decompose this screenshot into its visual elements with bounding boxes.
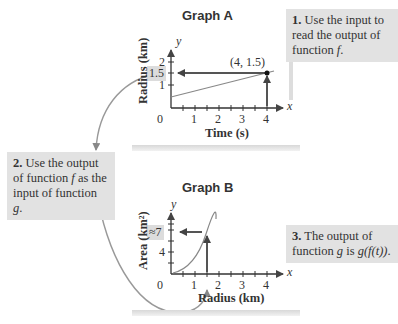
graph-a-x-label: Time (s) — [205, 126, 249, 141]
callout-step-2: 2. Use the output of function f as the i… — [7, 152, 115, 220]
graph-a-shadow — [132, 145, 300, 151]
graph-a-xtick-1: 1 — [191, 112, 197, 127]
step-3-text-b: is — [343, 244, 358, 258]
graph-a-axes — [168, 50, 283, 111]
graph-b-xtick-0: 0 — [157, 278, 163, 293]
graph-a-xtick-4: 4 — [263, 112, 269, 127]
graph-a-y-var: y — [176, 34, 181, 49]
graph-a-point-label: (4, 1.5) — [230, 55, 265, 70]
graph-a-y-label: Radius (km) — [136, 38, 151, 104]
step-3-expression: g(f(t)) — [358, 244, 388, 258]
step-2-end: . — [19, 201, 22, 215]
graph-b-xtick-1: 1 — [191, 278, 197, 293]
step-3-end: . — [388, 244, 391, 258]
graph-b-y-label: Area (km²) — [136, 211, 151, 270]
graph-b-x-var: x — [287, 265, 292, 280]
step-2-number: 2. — [13, 156, 22, 170]
graph-b-y-var: y — [171, 197, 176, 212]
callout-step-1: 1. Use the input to read the output of f… — [286, 9, 398, 62]
graph-a-title: Graph A — [182, 8, 233, 23]
callout-step-3: 3. The output of function g is g(f(t)). — [286, 225, 398, 263]
graph-b-x-label: Radius (km) — [198, 291, 264, 306]
step-3-number: 3. — [292, 229, 301, 243]
graph-b-ytick-4: 4 — [159, 245, 165, 260]
graph-a-ytick-1: 1 — [159, 78, 165, 93]
graph-b-shadow — [132, 310, 300, 316]
graph-b-axes — [168, 212, 283, 277]
graph-a-x-var: x — [287, 99, 292, 114]
graph-a-xtick-3: 3 — [239, 112, 245, 127]
step-1-number: 1. — [292, 13, 301, 27]
graph-a-xtick-2: 2 — [215, 112, 221, 127]
graph-a-xtick-0: 0 — [157, 112, 163, 127]
step-1-end: . — [340, 43, 343, 57]
graph-b-title: Graph B — [182, 180, 233, 195]
